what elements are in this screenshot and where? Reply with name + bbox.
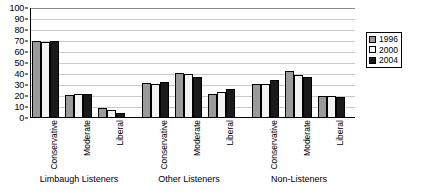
y-tick-label: 0 bbox=[19, 114, 24, 123]
legend-item: 1996 bbox=[369, 35, 398, 44]
bar bbox=[184, 74, 193, 118]
bar bbox=[336, 97, 345, 118]
y-tick-mark bbox=[25, 19, 28, 20]
bar bbox=[303, 77, 312, 118]
y-tick-mark bbox=[25, 52, 28, 53]
bar-cluster bbox=[32, 8, 61, 118]
bar bbox=[107, 110, 116, 118]
bar bbox=[318, 96, 327, 118]
bar-cluster bbox=[175, 8, 204, 118]
category-label: Conservative bbox=[50, 120, 59, 170]
bar bbox=[270, 80, 279, 119]
y-tick-label: 70 bbox=[14, 37, 24, 46]
category-label: Conservative bbox=[270, 120, 279, 170]
bar-group bbox=[32, 8, 138, 118]
bar bbox=[142, 83, 151, 118]
legend-swatch bbox=[369, 57, 376, 64]
bar-cluster bbox=[142, 8, 171, 118]
bar bbox=[74, 94, 83, 118]
bar bbox=[65, 95, 74, 118]
y-tick-mark bbox=[25, 96, 28, 97]
y-tick-mark bbox=[25, 63, 28, 64]
bar bbox=[193, 77, 202, 118]
legend-label: 2000 bbox=[379, 46, 398, 55]
y-tick-label: 100 bbox=[10, 4, 24, 13]
bar bbox=[41, 42, 50, 118]
category-label: Liberal bbox=[226, 120, 235, 146]
group-label: Non-Listeners bbox=[271, 175, 327, 184]
bar bbox=[160, 82, 169, 118]
y-tick-mark bbox=[25, 8, 28, 9]
bar bbox=[32, 41, 41, 118]
bar-group bbox=[142, 8, 248, 118]
bar bbox=[217, 92, 226, 118]
legend-swatch bbox=[369, 36, 376, 43]
legend: 199620002004 bbox=[366, 32, 402, 68]
y-axis: 0102030405060708090100 bbox=[0, 8, 28, 118]
bar bbox=[285, 71, 294, 118]
bar bbox=[175, 73, 184, 118]
y-tick-label: 50 bbox=[14, 59, 24, 68]
bar bbox=[83, 94, 92, 118]
group-label: Limbaugh Listeners bbox=[40, 175, 119, 184]
y-tick-label: 20 bbox=[14, 92, 24, 101]
category-label: Liberal bbox=[336, 120, 345, 146]
bar-cluster bbox=[65, 8, 94, 118]
y-tick-mark bbox=[25, 74, 28, 75]
group-label: Other Listeners bbox=[158, 175, 220, 184]
bar bbox=[226, 89, 235, 118]
legend-item: 2000 bbox=[369, 46, 398, 55]
y-tick-label: 30 bbox=[14, 81, 24, 90]
legend-label: 2004 bbox=[379, 56, 398, 65]
category-label: Moderate bbox=[193, 120, 202, 156]
bar bbox=[252, 84, 261, 118]
y-tick-label: 40 bbox=[14, 70, 24, 79]
legend-label: 1996 bbox=[379, 35, 398, 44]
bar bbox=[327, 96, 336, 118]
y-tick-mark bbox=[25, 30, 28, 31]
y-tick-mark bbox=[25, 118, 28, 119]
legend-item: 2004 bbox=[369, 56, 398, 65]
y-tick-label: 60 bbox=[14, 48, 24, 57]
bar-cluster bbox=[318, 8, 347, 118]
bar bbox=[116, 113, 125, 119]
grouped-bar-chart: 0102030405060708090100 ConservativeModer… bbox=[0, 0, 421, 194]
bar bbox=[261, 84, 270, 118]
category-label: Moderate bbox=[303, 120, 312, 156]
bar bbox=[151, 84, 160, 118]
bars-layer bbox=[30, 8, 355, 118]
legend-swatch bbox=[369, 46, 376, 53]
y-tick-mark bbox=[25, 85, 28, 86]
bar-cluster bbox=[285, 8, 314, 118]
bar-cluster bbox=[208, 8, 237, 118]
bar-group bbox=[252, 8, 358, 118]
y-tick-label: 80 bbox=[14, 26, 24, 35]
y-tick-label: 10 bbox=[14, 103, 24, 112]
bar-cluster bbox=[252, 8, 281, 118]
bar bbox=[98, 108, 107, 118]
category-axis-labels: ConservativeModerateLiberalConservativeM… bbox=[30, 120, 355, 172]
category-label: Moderate bbox=[83, 120, 92, 156]
bar bbox=[294, 75, 303, 118]
y-tick-label: 90 bbox=[14, 15, 24, 24]
category-label: Conservative bbox=[160, 120, 169, 170]
y-tick-mark bbox=[25, 107, 28, 108]
group-axis-labels: Limbaugh ListenersOther ListenersNon-Lis… bbox=[30, 175, 355, 191]
y-tick-mark bbox=[25, 41, 28, 42]
bar-cluster bbox=[98, 8, 127, 118]
bar bbox=[50, 41, 59, 118]
bar bbox=[208, 94, 217, 118]
category-label: Liberal bbox=[116, 120, 125, 146]
